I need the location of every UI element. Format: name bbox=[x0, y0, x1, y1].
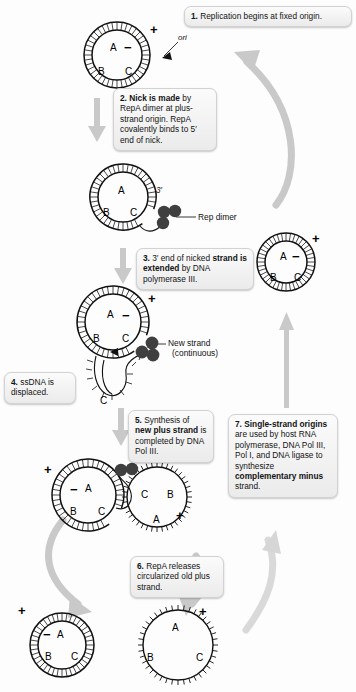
diagram-canvas: 1. Replication begins at fixed origin. 2… bbox=[0, 0, 356, 692]
label-b-m6: B bbox=[45, 652, 52, 662]
rep-dimer-step2 bbox=[140, 205, 181, 231]
callout-step-6: 6. RepA releases circularized old plus s… bbox=[130, 556, 224, 598]
arrow-step5-to-step6 bbox=[49, 520, 92, 618]
label-b-m5: B bbox=[270, 273, 277, 283]
label-a-m5: A bbox=[280, 252, 287, 262]
label-c-m4b: C bbox=[141, 490, 148, 500]
label-b-m1: B bbox=[98, 67, 105, 77]
label-a-m1: A bbox=[110, 43, 117, 53]
callout-step-3: 3. 3′ end of nicked strand is extended b… bbox=[136, 248, 254, 290]
label-minus-m6: − bbox=[43, 628, 51, 641]
label-new-strand-line1: New strand bbox=[168, 338, 210, 348]
molecule-product-dsDNA bbox=[30, 613, 94, 677]
ssdna-tail-extending bbox=[86, 337, 159, 400]
molecule-plasmid-nicked bbox=[90, 164, 156, 230]
label-c-m6: C bbox=[71, 652, 78, 662]
label-plus-m3: + bbox=[148, 292, 156, 305]
molecule-plasmid-completed bbox=[52, 459, 124, 531]
callout-step-3-text: 3. 3′ end of nicked strand is extended b… bbox=[143, 253, 247, 284]
arrow-step7-to-product bbox=[279, 312, 294, 408]
callout-step-2-text: 2. Nick is made by RepA dimer at plus-st… bbox=[120, 93, 197, 145]
label-three-prime: 3′ bbox=[156, 186, 162, 195]
callout-step-1: 1. Replication begins at fixed origin. bbox=[184, 6, 352, 27]
label-b-m4b: B bbox=[167, 490, 174, 500]
callout-step-6-text: 6. RepA releases circularized old plus s… bbox=[137, 561, 210, 592]
label-a-m3: A bbox=[107, 310, 114, 320]
callout-step-7-text: 7. Single-strand origins are used by hos… bbox=[235, 419, 327, 491]
label-c-m3: C bbox=[122, 334, 129, 344]
label-ori: ori bbox=[178, 33, 187, 43]
label-b-m7: B bbox=[147, 653, 154, 663]
arrow-recycle-to-origin bbox=[234, 50, 291, 205]
label-new-strand-line2: (continuous) bbox=[172, 348, 218, 358]
label-plus-m4: + bbox=[44, 463, 52, 476]
label-plus-m6: + bbox=[18, 604, 26, 617]
molecule-product-final-dsDNA bbox=[257, 233, 315, 291]
leader-ori bbox=[162, 42, 178, 60]
label-a-m2: A bbox=[118, 186, 125, 196]
label-b-m4: B bbox=[70, 507, 77, 517]
label-plus-m5: + bbox=[312, 232, 320, 245]
label-plus-m7: + bbox=[199, 605, 207, 618]
label-minus-m1: − bbox=[124, 41, 132, 54]
label-c-m5: C bbox=[294, 273, 301, 283]
label-b-m2: B bbox=[103, 208, 110, 218]
label-minus-m4: − bbox=[70, 483, 78, 496]
label-plus-m4b: + bbox=[176, 509, 184, 522]
label-a-m6: A bbox=[57, 630, 64, 640]
label-plus-m1: + bbox=[150, 23, 158, 36]
callout-step-7: 7. Single-strand origins are used by hos… bbox=[228, 414, 338, 498]
arrow-step1-to-step2 bbox=[88, 98, 106, 142]
label-minus-m5: − bbox=[292, 250, 300, 263]
callout-step-2: 2. Nick is made by RepA dimer at plus-st… bbox=[113, 88, 217, 151]
callout-step-4-text: 4. ssDNA is displaced. bbox=[11, 377, 54, 397]
label-minus-m3: − bbox=[122, 309, 130, 322]
label-b-m3: B bbox=[93, 334, 100, 344]
label-c-m4: C bbox=[98, 507, 105, 517]
label-c-m1: C bbox=[125, 67, 132, 77]
callout-step-4: 4. ssDNA is displaced. bbox=[4, 372, 76, 404]
arrow-ssdna-to-step7 bbox=[246, 530, 281, 630]
molecule-plasmid-origin bbox=[84, 22, 150, 88]
label-c-m7: C bbox=[196, 653, 203, 663]
label-a-m4b: A bbox=[153, 515, 160, 525]
label-rep-dimer: Rep dimer bbox=[198, 212, 237, 222]
arrow-step2-to-step3 bbox=[114, 248, 132, 284]
callout-step-1-text: 1. Replication begins at fixed origin. bbox=[191, 11, 322, 21]
label-c-tail-m3: C bbox=[100, 396, 107, 406]
label-a-m4: A bbox=[85, 484, 92, 494]
callout-step-5-text: 5. Synthesis of new plus strand is compl… bbox=[135, 415, 206, 456]
callout-step-5: 5. Synthesis of new plus strand is compl… bbox=[128, 410, 214, 463]
label-a-m7: A bbox=[172, 623, 179, 633]
label-c-m2: C bbox=[130, 208, 137, 218]
